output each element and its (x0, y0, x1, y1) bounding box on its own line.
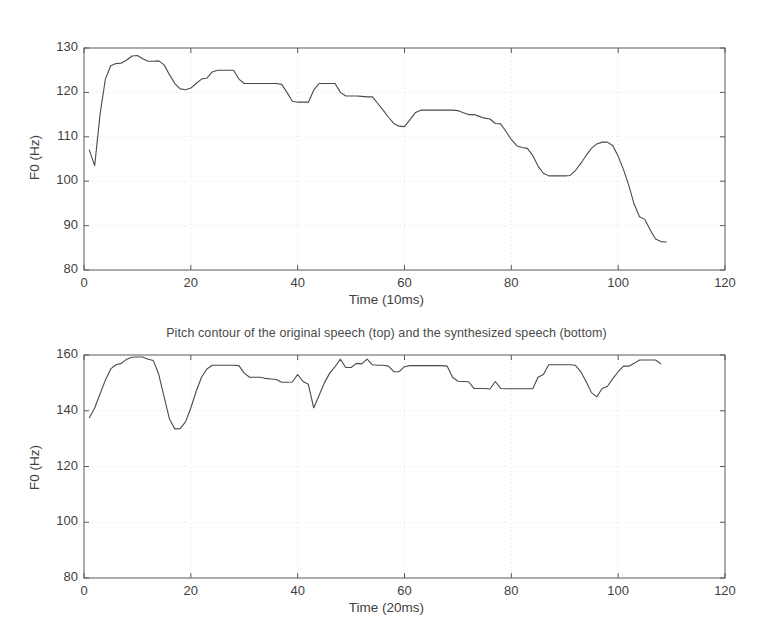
x-tick-label: 100 (598, 275, 638, 290)
y-axis-label-top: F0 (Hz) (27, 118, 42, 198)
y-tick-label: 100 (44, 172, 78, 187)
original-speech-plot (0, 0, 773, 320)
x-tick-label: 120 (705, 583, 745, 598)
y-tick-label: 100 (44, 513, 78, 528)
x-tick-label: 80 (491, 583, 531, 598)
x-tick-label: 40 (278, 583, 318, 598)
x-tick-label: 80 (491, 275, 531, 290)
y-tick-label: 80 (44, 569, 78, 584)
y-tick-label: 80 (44, 261, 78, 276)
y-tick-label: 120 (44, 83, 78, 98)
x-axis-label-bottom: Time (20ms) (0, 600, 773, 615)
pitch-contour-line (89, 357, 661, 429)
x-tick-label: 40 (278, 275, 318, 290)
x-tick-label: 120 (705, 275, 745, 290)
x-tick-label: 0 (64, 583, 104, 598)
y-tick-label: 130 (44, 39, 78, 54)
x-tick-label: 60 (385, 583, 425, 598)
y-axis-label-bottom: F0 (Hz) (27, 428, 42, 508)
y-tick-label: 90 (44, 217, 78, 232)
y-tick-label: 110 (44, 128, 78, 143)
pitch-contour-line (89, 56, 666, 242)
x-tick-label: 20 (171, 583, 211, 598)
x-tick-label: 20 (171, 275, 211, 290)
y-tick-label: 120 (44, 458, 78, 473)
x-tick-label: 60 (385, 275, 425, 290)
y-tick-label: 140 (44, 402, 78, 417)
y-tick-label: 160 (44, 346, 78, 361)
chart-panel-original-speech: Time (10ms) F0 (Hz) 80901001101201300204… (0, 0, 773, 320)
x-tick-label: 0 (64, 275, 104, 290)
pitch-contour-figure: Time (10ms) F0 (Hz) 80901001101201300204… (0, 0, 773, 640)
x-axis-label-top: Time (10ms) (0, 292, 773, 307)
chart-panel-synthesized-speech: 80100120140160020406080100120 (0, 320, 773, 640)
x-tick-label: 100 (598, 583, 638, 598)
